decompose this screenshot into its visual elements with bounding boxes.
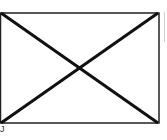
image-placeholder xyxy=(0,0,167,140)
crossed-box-icon xyxy=(1,13,160,123)
right-edge-line xyxy=(164,12,165,42)
caption-label: J xyxy=(0,124,5,134)
